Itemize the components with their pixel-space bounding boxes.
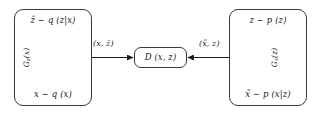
decoder-output-label: x̃ ∼ p (x|z) [229, 90, 307, 99]
encoder-output-label: ẑ ∼ q (z|x) [14, 16, 92, 25]
encoder-input-label: x ∼ q (x) [14, 90, 92, 99]
decoder-input-label: z ∼ p (z) [229, 16, 307, 25]
decoder-function-base: G [270, 61, 279, 67]
decoder-function-arg: (z) [270, 48, 279, 58]
encoder-edge-label: (x, ẑ) [93, 40, 114, 48]
encoder-function-subscript: z [25, 58, 31, 61]
encoder-function-label: Gz(x) [23, 44, 32, 70]
decoder-function-label: Gx(z) [271, 44, 280, 70]
encoder-function-base: G [22, 61, 31, 67]
ali-architecture-diagram: ẑ ∼ q (z|x) x ∼ q (x) Gz(x) z ∼ p (z) x̃… [0, 0, 321, 115]
decoder-function-subscript: x [273, 58, 279, 61]
discriminator-label: D (x, z) [134, 53, 187, 62]
decoder-edge-label: (x̃, z) [199, 40, 220, 48]
encoder-function-arg: (x) [22, 48, 31, 58]
